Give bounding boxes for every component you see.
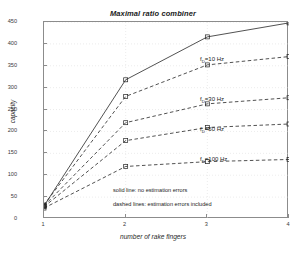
- x-tick-mark: [125, 214, 126, 218]
- series-annotation-fd50: fD=50 Hz: [200, 126, 224, 134]
- data-marker: [287, 122, 289, 126]
- annot-rest: =100 Hz: [205, 156, 228, 162]
- x-tick-mark: [43, 214, 44, 218]
- y-tick-mark: [43, 196, 47, 197]
- y-tick-mark: [43, 109, 47, 110]
- series-annotation-fd30: fD=30 Hz: [200, 96, 224, 104]
- y-axis-label: capacity: [9, 82, 16, 142]
- y-tick-label: 50: [0, 193, 17, 199]
- data-marker: [287, 55, 289, 59]
- y-tick-label: 150: [0, 149, 17, 155]
- y-tick-mark: [43, 130, 47, 131]
- legend-note-dashed: dashed lines: estimation errors included: [113, 201, 212, 207]
- y-tick-mark: [43, 174, 47, 175]
- x-tick-mark: [206, 214, 207, 218]
- x-tick-label: 2: [115, 221, 135, 227]
- y-tick-label: 450: [0, 18, 17, 24]
- annot-rest: =30 Hz: [205, 96, 224, 102]
- annot-rest: =50 Hz: [205, 126, 224, 132]
- y-tick-label: 400: [0, 40, 17, 46]
- series-line-3: [44, 124, 289, 207]
- x-axis-label: number of rake fingers: [0, 233, 306, 240]
- x-tick-label: 4: [278, 221, 298, 227]
- series-line-0: [44, 23, 289, 206]
- y-tick-label: 350: [0, 62, 17, 68]
- series-annotation-fd10: fD=10 Hz: [200, 56, 224, 64]
- chart-figure: Maximal ratio combiner 50100150200250300…: [0, 0, 306, 259]
- series-annotation-fd100: fD=100 Hz: [200, 156, 227, 164]
- y-tick-label: 100: [0, 171, 17, 177]
- x-tick-label: 1: [33, 221, 53, 227]
- annot-rest: =10 Hz: [205, 56, 224, 62]
- y-tick-mark: [43, 152, 47, 153]
- legend-note-solid: solid line: no estimation errors: [113, 187, 187, 193]
- y-tick-label: 0: [0, 215, 17, 221]
- y-tick-mark: [43, 87, 47, 88]
- chart-title: Maximal ratio combiner: [0, 9, 306, 18]
- x-tick-mark: [288, 214, 289, 218]
- series-line-1: [44, 57, 289, 205]
- y-tick-mark: [43, 65, 47, 66]
- x-tick-label: 3: [196, 221, 216, 227]
- y-tick-mark: [43, 43, 47, 44]
- data-marker: [287, 96, 289, 100]
- series-layer: [44, 22, 289, 210]
- y-tick-mark: [43, 21, 47, 22]
